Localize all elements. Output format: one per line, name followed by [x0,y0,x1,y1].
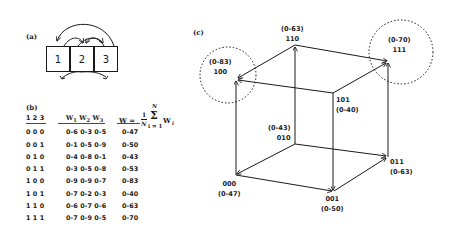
arrow-3-to-2-icon [86,38,104,46]
table-row: 1 0 10-7 0-2 0-30-40 [26,188,152,200]
header-weights: W1 W2 W3 [66,112,122,126]
table-row: 0 1 10-3 0-5 0-80-53 [26,163,152,175]
arrow-2-to-3-icon [78,38,103,46]
table-row: 0 0 00-6 0-3 0-50-47 [26,126,152,138]
sum-icon: Σ [150,109,158,122]
vertex-100-label: (0-83)100 [209,57,232,77]
table-row: 0 0 10-1 0-5 0-90-50 [26,139,152,151]
arrow-3-to-1-icon [57,24,114,46]
panel-c-label: (c) [193,28,204,37]
vertex-000-label: 000(0-47) [218,179,241,199]
table-row: 1 1 10-7 0-9 0-50-70 [26,212,152,224]
epistasis-arrows [57,24,114,79]
vertex-110-label: (0-63)110 [281,24,304,44]
table-row: 0 1 00-4 0-8 0-10-43 [26,151,152,163]
header-bits: 1 2 3 [26,112,66,124]
table-row: 1 1 00-6 0-7 0-60-63 [26,200,152,212]
vertex-001-label: 001(0-50) [321,194,344,214]
vertex-101-label: 101(0-40) [336,95,359,115]
vertex-011-label: 011(0-63) [390,157,413,177]
vertex-010-label: (0-43)010 [268,123,291,143]
fitness-table: 1 2 3W1 W2 W3 0 0 00-6 0-3 0-50-47 0 0 1… [26,112,152,224]
arrow-lower-icon [62,72,106,78]
arrow-1-to-2-icon [64,38,83,46]
table-row: 1 0 00-9 0-9 0-70-83 [26,175,152,187]
vertex-111-label: (0-70)111 [388,35,411,55]
panel-b-label: (b) [26,103,38,112]
hypercube [236,45,388,191]
